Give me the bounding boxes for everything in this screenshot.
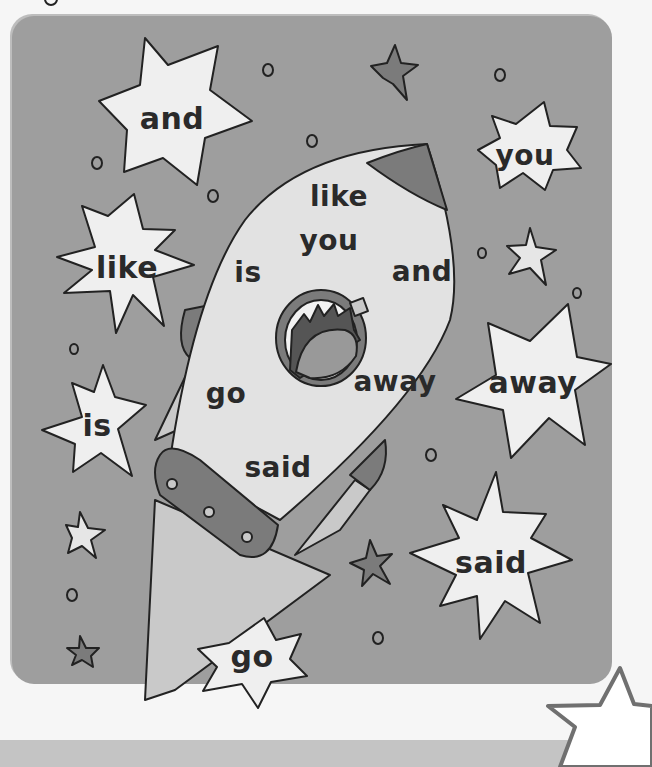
star-icon <box>350 540 392 586</box>
rocket-word-is: is <box>234 256 261 289</box>
star-word-and: and <box>140 101 205 136</box>
star-icon <box>507 228 556 285</box>
rocket-word-go: go <box>206 377 246 410</box>
star-word-you: you <box>496 139 555 172</box>
rocket-word-you: you <box>300 224 359 257</box>
star-word-away: away <box>489 365 578 400</box>
rocket-word-and: and <box>392 255 452 288</box>
star-icon <box>66 512 105 558</box>
corner-star <box>548 668 652 767</box>
star-word-go: go <box>230 639 273 674</box>
rocket-word-away: away <box>353 365 436 398</box>
star-word-said: said <box>455 545 527 580</box>
rocket-word-said: said <box>244 451 311 484</box>
star-icon <box>371 45 418 100</box>
rocket-word-like: like <box>310 180 368 213</box>
star-word-is: is <box>82 408 111 443</box>
star-icon <box>67 636 99 667</box>
star-word-like: like <box>96 250 158 285</box>
